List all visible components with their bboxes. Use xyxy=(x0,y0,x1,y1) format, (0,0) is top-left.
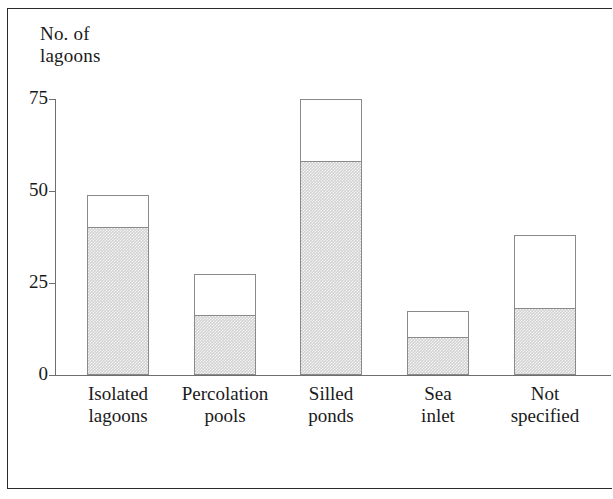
y-axis-tick-mark xyxy=(49,191,56,192)
bar xyxy=(407,311,469,375)
bar-segment-shaded xyxy=(408,337,468,374)
y-axis-tick-label: 75 xyxy=(29,88,48,108)
x-axis-category-label: Not specified xyxy=(492,383,598,427)
bar xyxy=(300,99,362,375)
x-axis-category-label: Sea inlet xyxy=(385,383,491,427)
x-axis-category-label: Silled ponds xyxy=(278,383,384,427)
bar-segment-shaded xyxy=(515,308,575,374)
y-axis-tick-label: 25 xyxy=(29,272,48,292)
y-axis-tick-label: 50 xyxy=(29,180,48,200)
y-axis-line xyxy=(55,99,56,376)
bar-segment-shaded xyxy=(301,161,361,374)
y-axis-tick-mark xyxy=(49,283,56,284)
figure-frame: No. of lagoons 7550250 Isolated lagoonsP… xyxy=(7,8,612,489)
bar xyxy=(87,195,149,375)
y-axis-title: No. of lagoons xyxy=(40,23,101,67)
bar-segment-shaded xyxy=(88,227,148,374)
bar xyxy=(194,274,256,375)
y-axis-tick-label: 0 xyxy=(39,364,49,384)
bar-segment-shaded xyxy=(195,315,255,374)
y-axis-tick-mark xyxy=(49,99,56,100)
y-axis-tick-mark xyxy=(49,375,56,376)
x-axis-line xyxy=(55,375,611,376)
x-axis-category-label: Percolation pools xyxy=(172,383,278,427)
plot-area: 7550250 xyxy=(55,99,611,376)
x-axis-category-label: Isolated lagoons xyxy=(65,383,171,427)
bar xyxy=(514,235,576,375)
